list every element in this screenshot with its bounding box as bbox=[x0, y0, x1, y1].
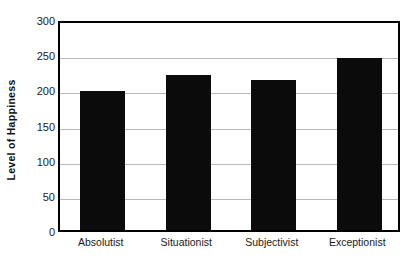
y-axis-tick-label: 200 bbox=[20, 85, 55, 97]
bar-series bbox=[60, 23, 398, 230]
y-axis-tick-label: 0 bbox=[20, 226, 55, 238]
y-axis-title-text: Level of Happiness bbox=[5, 79, 17, 180]
x-axis-tick-label: Absolutist bbox=[78, 236, 124, 248]
y-axis-title: Level of Happiness bbox=[2, 60, 20, 200]
y-axis-tick-label: 300 bbox=[20, 15, 55, 27]
bar bbox=[80, 91, 125, 230]
y-axis-tick-labels: 050100150200250300 bbox=[20, 0, 55, 264]
y-axis-tick-label: 100 bbox=[20, 156, 55, 168]
y-axis-tick-label: 250 bbox=[20, 50, 55, 62]
y-axis-tick-label: 50 bbox=[20, 191, 55, 203]
bar bbox=[337, 58, 382, 230]
bar bbox=[251, 80, 296, 230]
y-axis-tick-label: 150 bbox=[20, 121, 55, 133]
bar bbox=[166, 75, 211, 230]
x-axis-tick-label: Exceptionist bbox=[329, 236, 386, 248]
bar-chart-figure: Level of Happiness 050100150200250300 Ab… bbox=[0, 0, 418, 264]
x-axis-tick-label: Situationist bbox=[161, 236, 212, 248]
plot-area bbox=[58, 21, 400, 232]
x-axis-category-labels: AbsolutistSituationistSubjectivistExcept… bbox=[58, 236, 400, 256]
x-axis-tick-label: Subjectivist bbox=[245, 236, 298, 248]
